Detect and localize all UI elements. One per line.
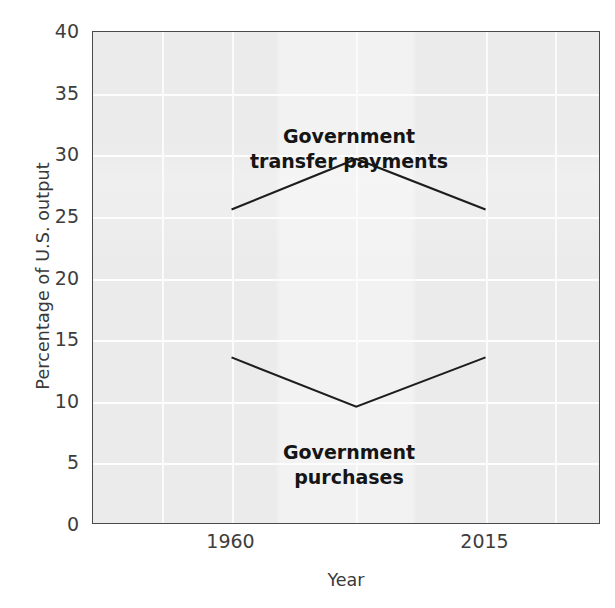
y-tick-label-25: 25 (55, 205, 79, 227)
y-tick-label-40: 40 (55, 20, 79, 42)
y-axis-tick-labels: 4035302520151050 (0, 0, 92, 608)
x-tick-label-2015: 2015 (460, 530, 508, 552)
x-tick-label-1960: 1960 (206, 530, 254, 552)
y-tick-label-20: 20 (55, 267, 79, 289)
annotation-transfer-line2: transfer payments (250, 149, 448, 174)
annotation-transfer-line1: Government (250, 124, 448, 149)
y-tick-label-30: 30 (55, 143, 79, 165)
annotation-purchases-line2: purchases (283, 465, 415, 490)
plot-area: Government transfer payments Government … (92, 31, 600, 524)
x-axis-tick-labels: 19602015 (0, 530, 615, 564)
x-axis-label: Year (92, 570, 600, 590)
chart-figure: Percentage of U.S. output 40353025201510… (0, 0, 615, 608)
annotation-government-transfer-payments: Government transfer payments (250, 124, 448, 174)
annotation-government-purchases: Government purchases (283, 440, 415, 490)
series-line-government-purchases (232, 357, 486, 406)
y-tick-label-35: 35 (55, 82, 79, 104)
y-tick-label-15: 15 (55, 328, 79, 350)
y-tick-label-10: 10 (55, 390, 79, 412)
annotation-purchases-line1: Government (283, 440, 415, 465)
y-tick-label-5: 5 (67, 451, 79, 473)
